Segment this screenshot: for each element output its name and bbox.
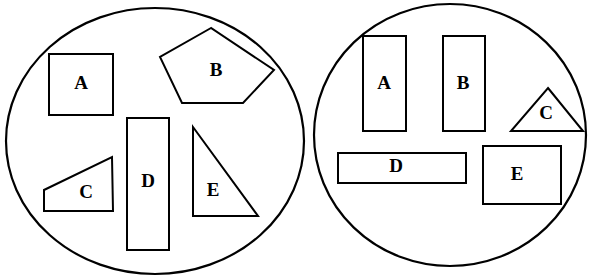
left-shape-a-label: A: [74, 72, 88, 93]
left-shape-c-label: C: [79, 181, 93, 202]
shapes-diagram: ABCDEABCDE: [0, 0, 599, 280]
right-shape-a: A: [363, 36, 406, 131]
left-shape-b-label: B: [210, 59, 223, 80]
right-shape-d: D: [338, 153, 466, 183]
right-shape-c-label: C: [539, 102, 553, 123]
left-shape-e-label: E: [207, 179, 220, 200]
left-shape-d-label: D: [141, 170, 155, 191]
left-shape-a: A: [49, 54, 113, 115]
right-shape-d-label: D: [389, 155, 403, 176]
right-shape-a-label: A: [377, 72, 391, 93]
right-shape-e: E: [483, 146, 561, 204]
right-shape-e-label: E: [511, 163, 524, 184]
right-circle-group: ABCDE: [314, 4, 586, 266]
diagram-canvas: ABCDEABCDE: [0, 0, 599, 280]
right-shape-b: B: [443, 36, 485, 131]
left-circle-group: ABCDE: [6, 8, 304, 274]
left-shape-d: D: [127, 118, 169, 250]
right-shape-b-label: B: [457, 72, 470, 93]
